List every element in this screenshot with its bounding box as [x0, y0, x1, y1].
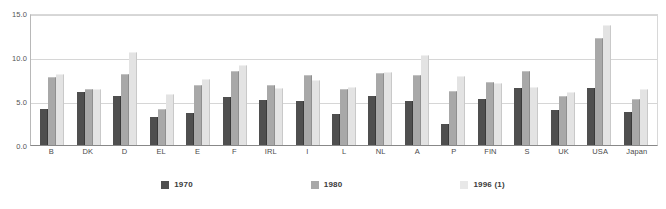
bar: [194, 85, 202, 145]
bar-group: [180, 15, 216, 145]
bar: [405, 101, 413, 145]
bar: [48, 77, 56, 145]
bar: [494, 83, 502, 145]
bar: [368, 96, 376, 145]
x-tick-label: IRL: [253, 147, 290, 165]
plot-area: [30, 14, 658, 146]
y-axis: 0.05.010.015.0: [0, 0, 30, 175]
legend-label: 1980: [324, 180, 343, 189]
bar-group: [581, 15, 617, 145]
bar: [595, 38, 603, 145]
bar-groups: [32, 15, 656, 145]
bar-group: [34, 15, 70, 145]
x-tick-label: NL: [362, 147, 399, 165]
legend-label: 1996 (1): [473, 180, 504, 189]
legend-swatch-icon: [311, 181, 319, 189]
bar: [421, 55, 429, 145]
bar-chart: 0.05.010.015.0 BDKDELEFIRLILNLAPFINSUKUS…: [0, 0, 666, 209]
bar: [304, 75, 312, 145]
bar: [231, 71, 239, 145]
bar: [158, 109, 166, 145]
x-tick-label: F: [216, 147, 253, 165]
y-tick-label: 0.0: [16, 142, 27, 151]
x-tick-label: E: [179, 147, 216, 165]
bar: [384, 72, 392, 145]
x-tick-label: P: [436, 147, 473, 165]
x-tick-label: EL: [143, 147, 180, 165]
bar: [640, 89, 648, 145]
bar-group: [618, 15, 654, 145]
bar: [332, 114, 340, 145]
x-tick-label: S: [509, 147, 546, 165]
bar-group: [326, 15, 362, 145]
bar: [559, 96, 567, 145]
bar-group: [253, 15, 289, 145]
legend-swatch-icon: [161, 181, 169, 189]
bar: [275, 88, 283, 145]
bar-group: [216, 15, 252, 145]
chart-legend: 197019801996 (1): [0, 180, 666, 202]
bar: [514, 88, 522, 145]
bar-group: [435, 15, 471, 145]
bar-group: [362, 15, 398, 145]
bar-group: [508, 15, 544, 145]
x-tick-label: USA: [582, 147, 619, 165]
bar: [259, 100, 267, 145]
x-tick-label: A: [399, 147, 436, 165]
bar: [296, 101, 304, 145]
bar-group: [399, 15, 435, 145]
bar: [77, 92, 85, 145]
bar: [166, 94, 174, 145]
x-tick-label: DK: [70, 147, 107, 165]
x-tick-label: FIN: [472, 147, 509, 165]
bar-group: [143, 15, 179, 145]
bar: [40, 109, 48, 145]
x-tick-label: I: [289, 147, 326, 165]
x-axis: BDKDELEFIRLILNLAPFINSUKUSAJapan: [31, 147, 657, 165]
bar: [202, 79, 210, 145]
y-tick-label: 5.0: [16, 98, 27, 107]
legend-item: 1996 (1): [460, 180, 504, 189]
bar: [522, 71, 530, 145]
bar: [457, 76, 465, 145]
bar: [85, 89, 93, 145]
bar: [223, 97, 231, 145]
bar: [478, 99, 486, 145]
bar: [186, 113, 194, 145]
legend-swatch-icon: [460, 181, 468, 189]
bar: [530, 87, 538, 145]
bar: [486, 82, 494, 145]
bar: [267, 85, 275, 145]
y-tick-label: 10.0: [12, 54, 27, 63]
x-tick-label: L: [326, 147, 363, 165]
legend-item: 1970: [161, 180, 193, 189]
bar: [449, 91, 457, 145]
legend-item: 1980: [311, 180, 343, 189]
bar: [348, 87, 356, 145]
bar-group: [545, 15, 581, 145]
bar: [113, 96, 121, 145]
bar: [551, 110, 559, 145]
bar: [413, 75, 421, 145]
bar: [603, 25, 611, 145]
x-tick-label: D: [106, 147, 143, 165]
bar: [312, 80, 320, 145]
bar: [150, 117, 158, 145]
bar: [376, 73, 384, 145]
x-tick-label: UK: [545, 147, 582, 165]
bar: [587, 88, 595, 145]
bar: [239, 65, 247, 145]
bar-group: [107, 15, 143, 145]
bar: [340, 89, 348, 145]
bar: [56, 74, 64, 145]
bar: [624, 112, 632, 145]
bar: [129, 52, 137, 145]
y-tick-label: 15.0: [12, 10, 27, 19]
x-tick-label: Japan: [619, 147, 656, 165]
bar-group: [289, 15, 325, 145]
bar-group: [70, 15, 106, 145]
bar: [567, 92, 575, 145]
bar: [441, 124, 449, 145]
x-tick-label: B: [33, 147, 70, 165]
bar-group: [472, 15, 508, 145]
